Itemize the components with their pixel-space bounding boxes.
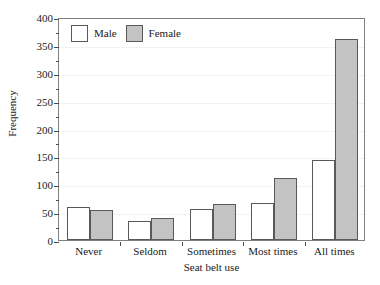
y-axis-minor-tick — [56, 89, 59, 90]
y-axis-minor-tick — [56, 61, 59, 62]
x-axis-tick-label: All times — [304, 245, 365, 257]
y-axis-minor-tick — [56, 172, 59, 173]
y-axis-tick-label: 400 — [37, 13, 54, 24]
bar-male-most-times — [251, 203, 274, 240]
bar-male-never — [67, 207, 90, 240]
y-axis-tick-label: 300 — [37, 69, 54, 80]
bar-female-all-times — [335, 39, 358, 240]
bar-male-all-times — [312, 160, 335, 240]
x-axis-title: Seat belt use — [58, 261, 365, 273]
y-axis-tick-label: 50 — [42, 208, 53, 219]
x-axis-tick-label: Most times — [242, 245, 303, 257]
legend-swatch-female-icon — [126, 25, 143, 42]
chart-legend: Male Female — [71, 25, 181, 42]
y-axis-tick — [54, 186, 59, 187]
y-axis-tick-label: 350 — [37, 41, 54, 52]
y-axis-tick — [54, 158, 59, 159]
legend-item-male: Male — [71, 25, 117, 42]
bar-female-most-times — [274, 178, 297, 240]
y-axis-tick — [54, 103, 59, 104]
plot-area: Male Female — [58, 18, 365, 241]
legend-label-female: Female — [149, 28, 181, 39]
y-axis-tick — [54, 75, 59, 76]
y-axis-tick-label: 250 — [37, 97, 54, 108]
y-axis-tick — [54, 131, 59, 132]
y-axis-tick-labels: 050100150200250300350400 — [24, 18, 53, 241]
y-axis-minor-tick — [56, 117, 59, 118]
bar-male-seldom — [128, 221, 151, 240]
y-axis-tick-label: 0 — [48, 236, 54, 247]
bar-male-sometimes — [190, 209, 213, 240]
y-axis-minor-tick — [56, 33, 59, 34]
y-axis-title: Frequency — [7, 64, 18, 164]
bar-female-sometimes — [213, 204, 236, 240]
y-axis-tick — [54, 19, 59, 20]
y-axis-minor-tick — [56, 144, 59, 145]
x-axis-tick-labels: NeverSeldomSometimesMost timesAll times — [58, 245, 365, 261]
y-axis-tick-label: 100 — [37, 180, 54, 191]
bar-female-seldom — [151, 218, 174, 240]
y-axis-tick — [54, 47, 59, 48]
y-axis-minor-tick — [56, 228, 59, 229]
y-axis-tick — [54, 214, 59, 215]
y-axis-tick-label: 150 — [37, 152, 54, 163]
y-axis-tick — [54, 242, 59, 243]
y-axis-minor-tick — [56, 200, 59, 201]
y-axis-tick-label: 200 — [37, 125, 54, 136]
legend-swatch-male-icon — [71, 25, 88, 42]
x-axis-tick-label: Seldom — [119, 245, 180, 257]
x-axis-tick-label: Never — [58, 245, 119, 257]
x-axis-tick-label: Sometimes — [181, 245, 242, 257]
bar-female-never — [90, 210, 113, 240]
legend-label-male: Male — [94, 28, 117, 39]
legend-item-female: Female — [126, 25, 181, 42]
bar-chart-figure: Male Female 050100150200250300350400 Fre… — [0, 0, 380, 285]
